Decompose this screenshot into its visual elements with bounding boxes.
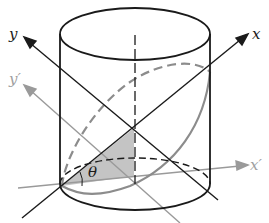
- label-y-prime: y′: [9, 72, 21, 87]
- cylinder-bottom-front: [60, 184, 210, 210]
- label-x: x: [252, 27, 260, 42]
- cylinder-diagram: [0, 0, 269, 223]
- x-axis: [22, 34, 248, 218]
- label-x-prime: x′: [250, 158, 262, 173]
- label-y: y: [9, 27, 17, 42]
- label-theta: θ: [88, 165, 97, 180]
